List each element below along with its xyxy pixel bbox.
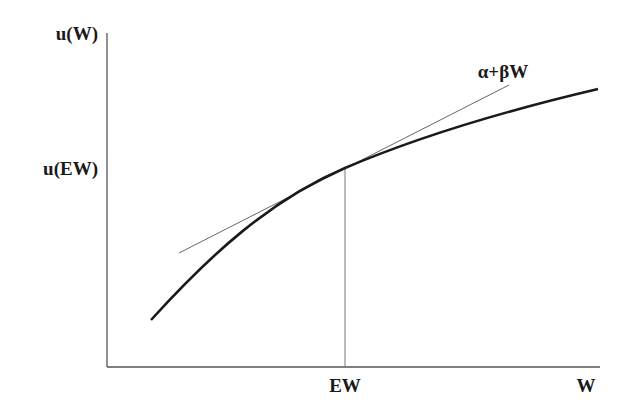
x-tick-label: EW — [329, 375, 361, 396]
x-axis-label: W — [577, 375, 596, 396]
y-tick-label: u(EW) — [43, 158, 98, 180]
tangent-label: α+βW — [478, 61, 528, 82]
utility-diagram: u(W) u(EW) EW W α+βW — [0, 0, 636, 415]
y-axis-label: u(W) — [56, 23, 98, 45]
utility-curve — [151, 89, 598, 320]
